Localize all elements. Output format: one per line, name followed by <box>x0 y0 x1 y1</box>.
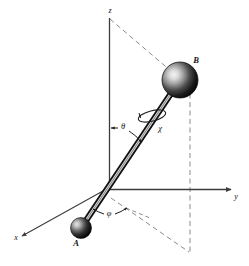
phi-label: φ <box>107 208 112 218</box>
z-axis-label: z <box>107 6 112 15</box>
coordinate-axes <box>22 18 231 236</box>
mass-b-label: B <box>192 55 199 65</box>
y-axis-label: y <box>233 192 238 201</box>
mass-a <box>71 218 92 239</box>
x-axis <box>22 186 112 236</box>
dashed-phi-reference-ray <box>126 208 150 218</box>
construction-lines <box>110 19 190 253</box>
rod-center-highlight <box>83 83 178 225</box>
rigid-rotor-diagram: z y x θ φ χ A B <box>0 0 249 266</box>
mass-a-label: A <box>72 238 79 248</box>
dashed-floor-projection <box>111 198 189 252</box>
x-axis-label: x <box>13 233 18 242</box>
chi-label: χ <box>157 123 162 133</box>
diagram-canvas: z y x θ φ χ A B <box>0 0 249 266</box>
dashed-z-to-b <box>110 19 172 72</box>
mass-b <box>162 62 198 98</box>
rigid-rod <box>83 83 178 225</box>
phi-arrow-to-reference <box>115 208 127 214</box>
theta-label: θ <box>121 121 125 131</box>
